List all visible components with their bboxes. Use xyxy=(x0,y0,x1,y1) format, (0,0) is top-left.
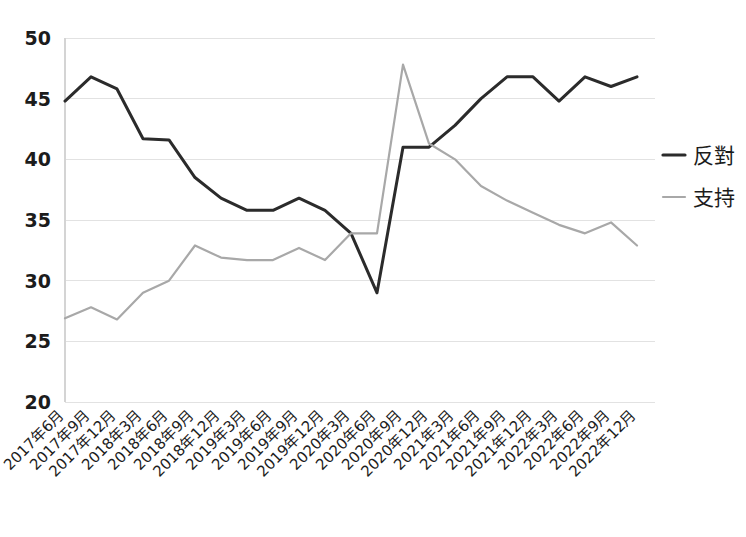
series-line-support xyxy=(65,65,637,320)
legend-label: 支持 xyxy=(693,186,735,210)
y-axis-tick-label: 35 xyxy=(25,209,51,231)
line-chart: 20253035404550 2017年6月2017年9月2017年12月201… xyxy=(0,0,746,537)
x-axis-tick-labels: 2017年6月2017年9月2017年12月2018年3月2018年6月2018… xyxy=(0,406,640,480)
legend-label: 反對 xyxy=(693,144,735,168)
y-axis-tick-label: 40 xyxy=(25,148,51,170)
y-axis-tick-label: 25 xyxy=(25,330,51,352)
series-line-oppose xyxy=(65,77,637,293)
y-axis-tick-labels: 20253035404550 xyxy=(25,27,51,413)
y-axis-tick-label: 30 xyxy=(25,270,51,292)
y-axis-tick-label: 20 xyxy=(25,391,51,413)
y-axis-tick-label: 45 xyxy=(25,88,51,110)
chart-legend: 反對支持 xyxy=(663,144,735,210)
chart-canvas: 20253035404550 2017年6月2017年9月2017年12月201… xyxy=(0,0,746,537)
data-series-group xyxy=(65,65,637,320)
y-axis-tick-label: 50 xyxy=(25,27,51,49)
